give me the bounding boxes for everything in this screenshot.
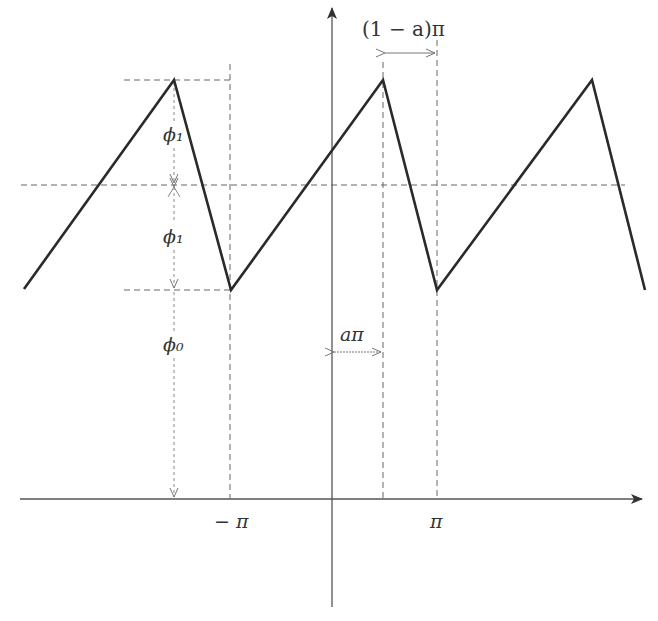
label-phi1-upper: ϕ₁ — [163, 123, 184, 145]
guide-lines — [21, 40, 625, 499]
label-phi1-lower: ϕ₁ — [163, 225, 184, 247]
sawtooth-diagram: (1 − a)π ϕ₁ ϕ₁ ϕ₀ aπ − π π — [0, 0, 658, 621]
label-pi: π — [429, 510, 443, 532]
label-a-pi: aπ — [340, 323, 364, 345]
label-one-minus-a-pi: (1 − a)π — [362, 17, 445, 41]
label-neg-pi: − π — [214, 510, 249, 532]
label-phi0: ϕ₀ — [163, 333, 184, 355]
